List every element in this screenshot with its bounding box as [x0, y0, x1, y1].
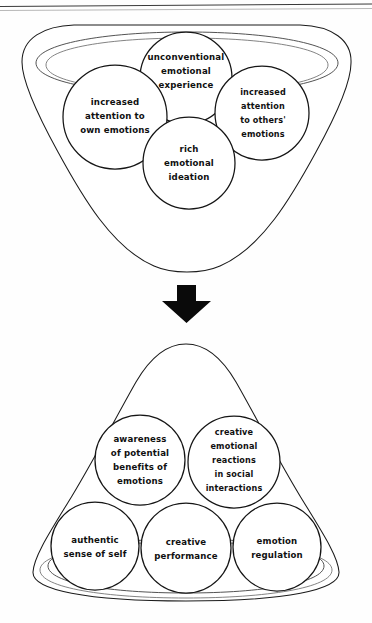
svg-text:creative: creative: [166, 537, 207, 547]
diagram-canvas: unconventional emotional experience incr…: [0, 0, 372, 623]
svg-text:interactions: interactions: [206, 483, 263, 493]
svg-text:attention: attention: [241, 101, 285, 111]
svg-text:emotional: emotional: [161, 66, 211, 76]
node-circle-authentic-sense-of-self[interactable]: [51, 502, 139, 590]
svg-text:ideation: ideation: [168, 172, 209, 182]
stage-antecedents-group: unconventional emotional experience incr…: [22, 25, 351, 272]
svg-text:emotion: emotion: [257, 536, 298, 546]
svg-text:authentic: authentic: [71, 535, 119, 545]
page-edge-line-top-soft: [0, 9, 372, 11]
svg-text:emotions: emotions: [117, 476, 163, 486]
transition-arrow: [162, 285, 211, 323]
svg-text:regulation: regulation: [251, 550, 303, 560]
svg-text:benefits of: benefits of: [113, 462, 167, 472]
svg-text:emotional: emotional: [164, 158, 214, 168]
svg-text:experience: experience: [159, 80, 214, 90]
svg-text:in social: in social: [215, 469, 254, 479]
svg-text:increased: increased: [91, 97, 139, 107]
node-circle-creative-performance[interactable]: [141, 503, 231, 593]
svg-text:performance: performance: [154, 551, 218, 561]
svg-text:awareness: awareness: [113, 434, 166, 444]
svg-text:attention to: attention to: [85, 111, 145, 121]
svg-text:increased: increased: [240, 87, 286, 97]
svg-text:own emotions: own emotions: [80, 125, 150, 135]
emotional-creativity-diagram: unconventional emotional experience incr…: [0, 0, 372, 623]
node-circle-emotion-regulation[interactable]: [233, 503, 321, 591]
svg-text:reactions: reactions: [212, 455, 256, 465]
svg-text:unconventional: unconventional: [148, 52, 225, 62]
svg-text:rich: rich: [180, 144, 199, 154]
svg-text:of potential: of potential: [111, 448, 169, 458]
stage-outcomes-group: awareness of potential benefits of emoti…: [33, 344, 339, 601]
svg-text:sense of self: sense of self: [63, 549, 126, 559]
svg-text:to others': to others': [240, 115, 286, 125]
page-edge-line-top: [0, 4, 372, 7]
down-arrow-icon: [162, 285, 211, 323]
svg-text:emotional: emotional: [210, 441, 257, 451]
svg-text:creative: creative: [215, 427, 254, 437]
svg-text:emotions: emotions: [241, 129, 284, 139]
node-circle-awareness-of-potential-benefits-of-emotions[interactable]: [95, 415, 185, 505]
